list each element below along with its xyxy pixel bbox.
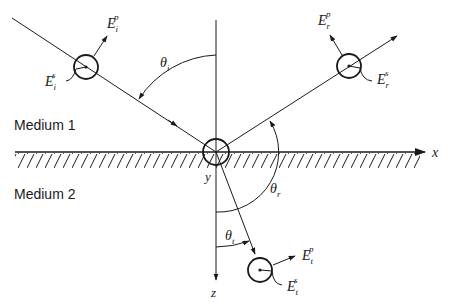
- incident-ray-arrow-icon: [168, 120, 177, 126]
- y-axis-label: y: [203, 169, 211, 184]
- reflected-ray: [216, 36, 397, 152]
- reflected-s-leader: [349, 66, 372, 81]
- reflection-refraction-diagram: x z y Eip Eis θi Erp Ers θr Etp Ets θt M…: [0, 0, 449, 303]
- reflected-s-label: Ers: [376, 68, 390, 90]
- z-axis-label: z: [210, 285, 216, 300]
- reflected-p-label: Erp: [317, 9, 331, 31]
- incident-p-label: Eip: [106, 12, 119, 34]
- transmitted-p-arrow: [273, 256, 295, 265]
- incident-angle-label: θi: [160, 55, 170, 73]
- reflected-angle-label: θr: [270, 181, 281, 199]
- transmitted-s-label: Ets: [286, 275, 299, 297]
- medium-1-label: Medium 1: [14, 117, 76, 133]
- medium-2-label: Medium 2: [14, 186, 76, 202]
- transmitted-p-label: Etp: [301, 244, 314, 266]
- incident-angle-arc: [139, 55, 216, 99]
- reflected-p-arrow: [330, 35, 342, 55]
- transmitted-angle-label: θt: [225, 228, 235, 246]
- incident-s-label: Eis: [44, 70, 57, 92]
- x-axis-label: x: [431, 145, 439, 160]
- incident-p-arrow: [94, 36, 107, 56]
